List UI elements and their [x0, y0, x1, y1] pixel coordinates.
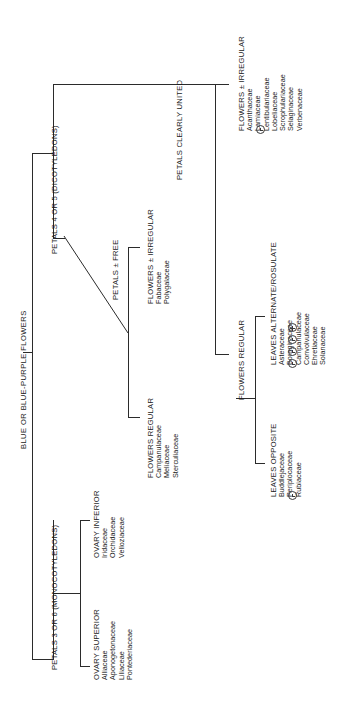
key-diagram: BLUE OR BLUE-PURPLE FLOWERS PETALS 3 OR … [0, 0, 339, 704]
node-flowers-regular-united: FLOWERS REGULAR [238, 320, 246, 400]
clock-badge-icon [288, 335, 297, 344]
line-free-diagonal [60, 230, 140, 340]
families-flowers-irregular-free: Fabaceae Polygalaceae [155, 260, 172, 304]
family-item: Velloziaceae [118, 517, 126, 558]
clock-badge-icon [256, 125, 265, 134]
line-free-regular [128, 417, 140, 418]
node-petals-free: PETALS ± FREE [112, 240, 120, 300]
line-united-regular [215, 354, 229, 355]
family-item: Verbenaceae [296, 74, 304, 131]
families-flowers-regular-free: Campanulaceae Meliaceae Sterculiaceae [155, 425, 180, 478]
families-leaves-opposite: Buddlejaceae Periplocaceae Rubiaceae [278, 451, 303, 497]
node-monocots: PETALS 3 OR 6 (MONOCOTYLEDONS) [51, 525, 59, 670]
family-item: Rubiaceae [295, 451, 303, 497]
node-petals-united: PETALS CLEARLY UNITED [176, 80, 184, 180]
families-flowers-irregular-united: Acanthaceae Lamiaceae Lentibulariaceae L… [246, 74, 304, 131]
clock-badge-icon [288, 491, 297, 500]
families-ovary-superior: Alliaceae Aponogetonaceae Liliaceae Pont… [101, 621, 134, 680]
line-ovary-inferior [80, 520, 90, 521]
plus-badge-icon [288, 323, 297, 332]
line-leaves-opposite [255, 463, 265, 464]
line-united-spine [215, 84, 216, 354]
clock-badge-icon [288, 359, 297, 368]
family-item: Pontederiaceae [126, 621, 134, 680]
diagram-title: BLUE OR BLUE-PURPLE FLOWERS [20, 310, 28, 449]
family-item: Solanaceae [319, 312, 327, 365]
families-ovary-inferior: Iridaceae Orchidaceae Velloziaceae [101, 517, 126, 558]
line-leaves-alternate [255, 316, 265, 317]
family-item: Sterculiaceae [172, 425, 180, 478]
families-leaves-alternate: Asteraceae Boraginaceae Campanulaceae Co… [278, 312, 328, 365]
clock-badge-icon [288, 347, 297, 356]
family-item: Polygalaceae [163, 260, 171, 304]
line-petals-united [53, 84, 65, 85]
line-united-irregular [215, 84, 229, 85]
node-dicots: PETALS 4 OR 5 (DICOTYLEDONS) [51, 125, 59, 254]
line-united-stub [65, 84, 215, 85]
line-root-spine [32, 153, 33, 659]
line-regular-united-spine [255, 316, 256, 463]
line-ovary-superior [80, 666, 90, 667]
